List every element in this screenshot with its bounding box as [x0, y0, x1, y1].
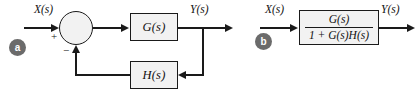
output-arrow-b: [407, 24, 415, 32]
output-signal-label-b: Y(s): [381, 3, 400, 15]
transfer-function-denominator: 1 + G(s)H(s): [305, 27, 373, 42]
panel-badge-a: a: [9, 39, 26, 56]
input-wire-b: [260, 27, 290, 29]
feedback-takeoff-wire: [202, 27, 204, 76]
feedback-output-wire: [75, 74, 130, 76]
forward-block-label: G(s): [142, 20, 165, 35]
summing-plus-sign: +: [51, 31, 57, 42]
input-wire-a: [24, 27, 51, 29]
feedback-block-label: H(s): [142, 68, 165, 83]
panel-badge-b: b: [255, 33, 272, 50]
feedback-input-arrow: [178, 71, 186, 79]
transfer-function-numerator: G(s): [321, 13, 357, 27]
error-arrow-a: [121, 24, 129, 32]
forward-block-g: G(s): [130, 13, 178, 41]
error-wire-a: [93, 27, 121, 29]
feedback-block-h: H(s): [130, 61, 178, 89]
input-signal-label-b: X(s): [265, 3, 284, 15]
feedback-input-wire: [185, 74, 204, 76]
input-arrow-b: [290, 24, 298, 32]
figure-canvas: a X(s) + − G(s) Y(s) H(s): [0, 0, 417, 97]
feedback-return-arrow: [72, 45, 80, 53]
equivalent-transfer-block: G(s) 1 + G(s)H(s): [299, 10, 379, 45]
input-signal-label-a: X(s): [34, 3, 53, 15]
output-wire-b: [379, 27, 407, 29]
summing-junction-a: [59, 11, 93, 45]
feedback-return-wire: [75, 53, 77, 76]
summing-minus-sign: −: [63, 45, 69, 56]
output-arrow-a: [225, 24, 233, 32]
transfer-function-fraction: G(s) 1 + G(s)H(s): [305, 13, 373, 42]
output-signal-label-a: Y(s): [190, 3, 209, 15]
